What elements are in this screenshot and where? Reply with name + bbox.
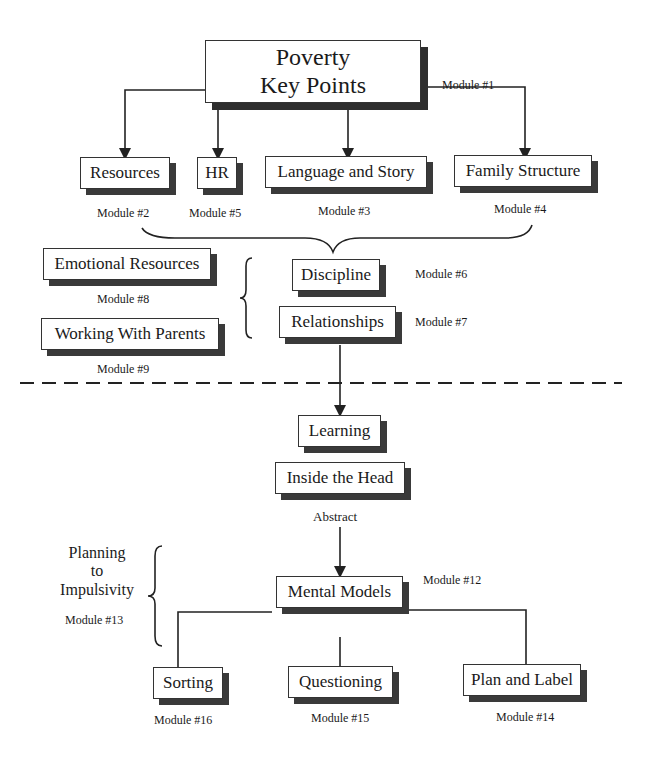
module-label-6: Module #6 [415,267,467,282]
abstract-label: Abstract [313,509,357,525]
module-label-4: Module #4 [494,202,546,217]
module-label-14: Module #14 [496,710,554,725]
plan-and-label-label: Plan and Label [471,671,573,690]
resources-box: Resources [80,157,170,189]
planning-to-impulsivity-label: Planning to Impulsivity [52,544,142,599]
title-line2: Key Points [260,72,366,100]
language-and-story-label: Language and Story [278,163,415,182]
planning-line3: Impulsivity [52,581,142,599]
sorting-label: Sorting [163,674,213,693]
discipline-box: Discipline [292,259,380,291]
module-label-12: Module #12 [423,573,481,588]
relationships-box: Relationships [279,306,396,338]
module-label-8: Module #8 [97,292,149,307]
module-label-16: Module #16 [154,713,212,728]
hr-label: HR [205,164,229,183]
poverty-key-points-box: Poverty Key Points [205,40,421,103]
mental-models-label: Mental Models [288,583,391,602]
module-label-7: Module #7 [415,315,467,330]
family-structure-label: Family Structure [466,162,581,181]
language-and-story-box: Language and Story [265,156,427,188]
module-label-1: Module #1 [442,78,494,93]
module-label-2: Module #2 [97,206,149,221]
plan-and-label-box: Plan and Label [463,664,581,696]
planning-line2: to [52,562,142,580]
learning-box: Learning [298,415,381,447]
planning-line1: Planning [52,544,142,562]
hr-box: HR [197,157,237,189]
module-label-13: Module #13 [65,613,123,628]
learning-label: Learning [309,422,370,441]
connector-lines [0,0,650,762]
sorting-box: Sorting [153,667,223,699]
module-label-9: Module #9 [97,362,149,377]
relationships-label: Relationships [291,313,384,332]
discipline-label: Discipline [301,266,371,285]
emotional-resources-label: Emotional Resources [55,255,200,274]
mental-models-box: Mental Models [276,576,403,608]
family-structure-box: Family Structure [454,155,592,187]
questioning-box: Questioning [288,666,393,698]
working-with-parents-label: Working With Parents [55,325,206,344]
inside-the-head-box: Inside the Head [275,462,405,494]
title-line1: Poverty [276,44,351,72]
resources-label: Resources [90,164,160,183]
working-with-parents-box: Working With Parents [41,318,219,350]
module-label-3: Module #3 [318,204,370,219]
module-label-5: Module #5 [189,206,241,221]
inside-the-head-label: Inside the Head [287,469,394,488]
module-label-15: Module #15 [311,711,369,726]
questioning-label: Questioning [299,673,382,692]
emotional-resources-box: Emotional Resources [43,248,211,280]
